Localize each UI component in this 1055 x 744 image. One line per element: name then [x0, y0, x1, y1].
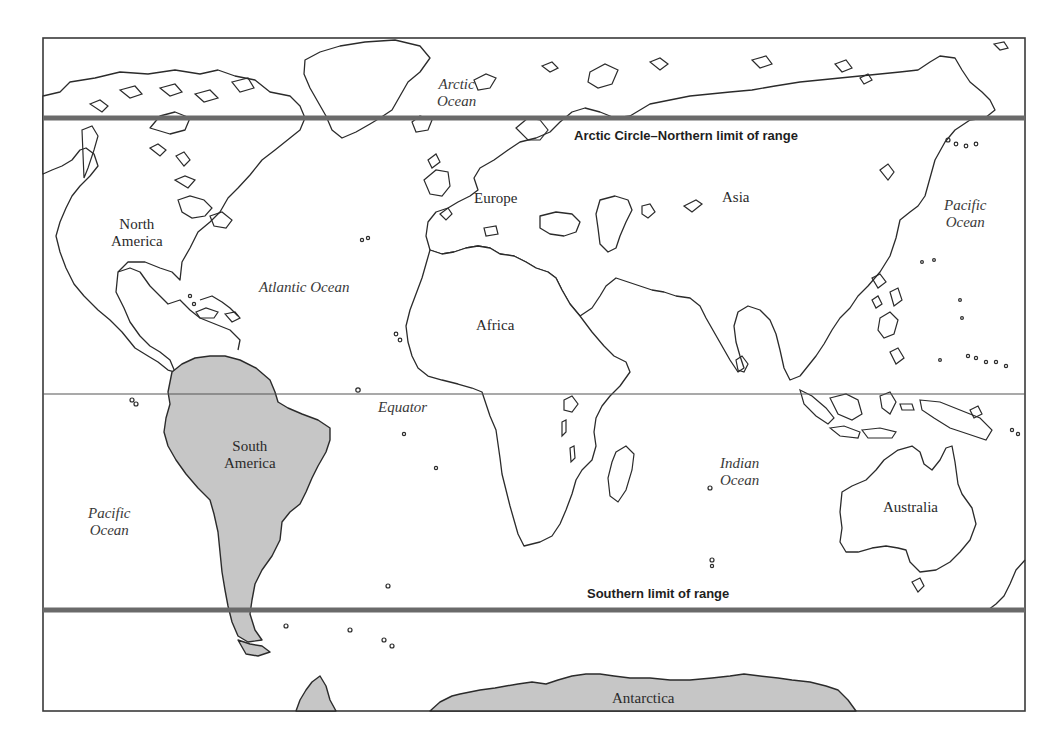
pacific-east-line2: Ocean [944, 214, 986, 231]
equator-label: Equator [378, 399, 427, 416]
atlantic-ocean-line1: Atlantic Ocean [259, 279, 349, 296]
indian-ocean-line2: Ocean [720, 472, 759, 489]
south-america-line2: America [224, 455, 276, 472]
north-america-line1: North [111, 216, 163, 233]
pacific-ocean-east-label: Pacific Ocean [944, 197, 986, 230]
australia-label: Australia [883, 499, 938, 516]
pacific-west-line1: Pacific [88, 505, 130, 522]
world-map [0, 0, 1055, 744]
pacific-ocean-west-label: Pacific Ocean [88, 505, 130, 538]
antarctica-label: Antarctica [612, 690, 674, 707]
north-america-line2: America [111, 233, 163, 250]
africa-label: Africa [476, 317, 514, 334]
pacific-west-line2: Ocean [88, 522, 130, 539]
northern-limit-label: Arctic Circle–Northern limit of range [574, 129, 798, 143]
indian-ocean-line1: Indian [720, 455, 759, 472]
asia-label: Asia [722, 189, 750, 206]
arctic-ocean-line2: Ocean [437, 93, 476, 110]
europe-label: Europe [474, 190, 517, 207]
north-america-label: North America [111, 216, 163, 249]
southern-limit-label: Southern limit of range [587, 587, 729, 601]
south-america-line1: South [224, 438, 276, 455]
pacific-east-line1: Pacific [944, 197, 986, 214]
arctic-ocean-line1: Arctic [437, 76, 476, 93]
indian-ocean-label: Indian Ocean [720, 455, 759, 488]
arctic-ocean-label: Arctic Ocean [437, 76, 476, 109]
south-america-label: South America [224, 438, 276, 471]
atlantic-ocean-label: Atlantic Ocean [259, 279, 349, 296]
